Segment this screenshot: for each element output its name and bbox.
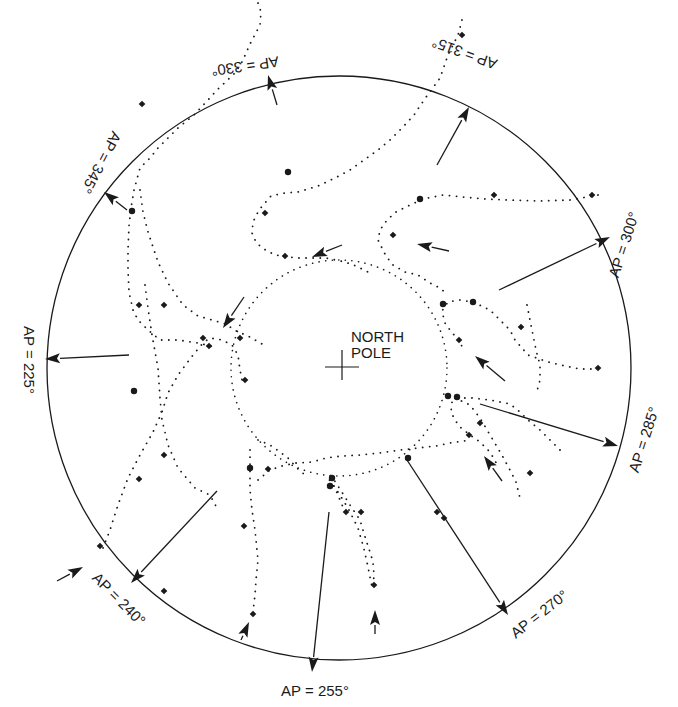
arrow xyxy=(475,356,505,381)
track-285b xyxy=(527,305,540,395)
diamond-marker xyxy=(200,335,207,342)
arrow xyxy=(238,622,249,640)
diamond-marker xyxy=(136,302,143,309)
circle-marker xyxy=(454,394,460,400)
diamond-marker xyxy=(161,452,168,459)
diamond-marker xyxy=(518,324,525,331)
diamond-marker xyxy=(136,476,143,483)
diamond-marker xyxy=(161,588,168,595)
diamond-marker xyxy=(282,253,289,260)
circle-marker xyxy=(470,299,476,305)
arrow xyxy=(484,456,502,481)
track-285 xyxy=(442,300,598,369)
arrow xyxy=(45,353,129,363)
north-label: NORTH xyxy=(351,328,404,345)
arrowhead-icon xyxy=(594,237,610,248)
diamond-marker xyxy=(459,32,466,39)
circle-marker xyxy=(445,393,451,399)
track-255 xyxy=(328,475,374,588)
arrowhead-icon xyxy=(475,356,490,369)
arrow xyxy=(104,192,127,210)
diamond-marker xyxy=(237,335,244,342)
circle-marker xyxy=(329,475,335,481)
track-mid xyxy=(258,440,470,480)
diamond-marker xyxy=(477,420,484,427)
arrow xyxy=(223,297,244,328)
track-225b xyxy=(145,285,218,510)
arrow xyxy=(480,404,618,446)
arrow xyxy=(370,610,380,634)
track-255b xyxy=(330,480,372,587)
diamond-marker xyxy=(358,509,365,516)
arrowhead-icon xyxy=(223,313,236,328)
ap-label: AP = 285° xyxy=(625,405,662,475)
diamond-marker xyxy=(371,582,378,589)
ap-label: AP = 300° xyxy=(605,210,642,280)
track-345-loop xyxy=(140,190,262,344)
polar-diagram: NORTH POLE AP = 330°AP = 315°AP = 345°AP… xyxy=(0,0,678,707)
diamond-marker xyxy=(206,343,213,350)
ap-label: AP = 255° xyxy=(281,682,349,699)
north-pole-marker: NORTH POLE xyxy=(325,328,404,380)
track-240 xyxy=(250,450,258,612)
arrow xyxy=(437,107,469,165)
arrowhead-icon xyxy=(484,456,497,471)
track-240b xyxy=(258,440,305,475)
diamond-marker xyxy=(456,337,463,344)
arrowhead-icon xyxy=(602,437,618,447)
arrow xyxy=(312,245,342,257)
track-270a xyxy=(451,398,560,466)
arrow xyxy=(57,567,83,581)
arrow xyxy=(309,512,329,672)
circle-marker xyxy=(417,196,423,202)
arrowhead-icon xyxy=(417,242,433,252)
circle-marker xyxy=(405,455,411,461)
diamond-marker xyxy=(491,192,498,199)
arrow xyxy=(131,491,217,583)
arrow xyxy=(268,75,278,105)
orbit-tracks xyxy=(103,3,598,612)
arrowhead-icon xyxy=(312,247,328,257)
diamond-marker xyxy=(390,232,397,239)
diamond-marker xyxy=(589,192,596,199)
diamond-marker xyxy=(262,210,269,217)
circle-marker xyxy=(285,169,291,175)
diamond-marker xyxy=(241,523,248,530)
circle-marker xyxy=(327,483,333,489)
arrowhead-icon xyxy=(104,192,119,205)
arrowhead-icon xyxy=(238,622,249,638)
inner-dotted-circle xyxy=(231,260,447,476)
circle-marker xyxy=(247,465,253,471)
ap-label: AP = 330° xyxy=(210,53,280,79)
diamond-marker xyxy=(161,302,168,309)
diamond-marker xyxy=(595,365,602,372)
circle-marker xyxy=(131,388,137,394)
ap-label: AP = 345° xyxy=(78,129,125,197)
arrow xyxy=(499,237,610,290)
arrow xyxy=(417,242,449,252)
diamond-marker xyxy=(250,611,257,618)
diamond-marker xyxy=(265,466,272,473)
arrowhead-icon xyxy=(67,567,83,579)
diamond-marker xyxy=(527,470,534,477)
track-markers xyxy=(97,32,602,618)
track-315 xyxy=(252,20,462,272)
arrow xyxy=(407,460,508,615)
circle-marker xyxy=(440,301,446,307)
circle-marker xyxy=(129,208,135,214)
ap-label: AP = 225° xyxy=(21,326,38,394)
pole-label: POLE xyxy=(351,344,391,361)
track-330 xyxy=(128,3,261,347)
track-225-loop xyxy=(103,338,243,548)
track-300 xyxy=(378,195,598,295)
diamond-marker xyxy=(139,101,146,108)
arrowhead-icon xyxy=(457,107,469,123)
diamond-marker xyxy=(242,377,249,384)
ap-label: AP = 315° xyxy=(430,34,500,73)
outer-boundary-circle xyxy=(47,76,631,660)
arrowhead-icon xyxy=(370,610,380,625)
ap-label: AP = 270° xyxy=(507,586,571,641)
direction-arrows xyxy=(45,75,618,672)
